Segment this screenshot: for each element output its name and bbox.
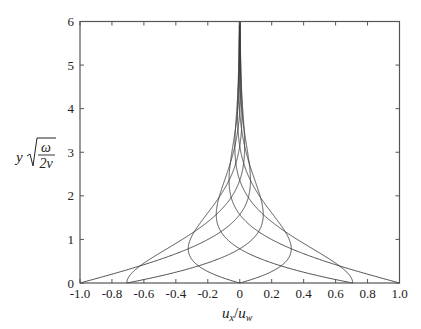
- svg-text:ω: ω: [41, 140, 51, 155]
- svg-text:y: y: [14, 149, 23, 165]
- y-tick-label: 4: [68, 101, 75, 116]
- x-tick-label: -0.4: [166, 286, 187, 301]
- profile-curves: [80, 22, 400, 284]
- x-tick-label: -0.8: [102, 286, 123, 301]
- velocity-profile-curve: [188, 22, 242, 284]
- x-tick-label: 0.8: [359, 286, 375, 301]
- y-tick-label: 1: [68, 232, 75, 247]
- velocity-profile-curve: [80, 22, 250, 284]
- x-tick-label: 0: [237, 286, 244, 301]
- y-tick-label: 3: [68, 145, 75, 160]
- x-tick-label: -0.2: [198, 286, 219, 301]
- velocity-profile-curve: [127, 22, 263, 284]
- x-tick-label: -0.6: [134, 286, 155, 301]
- x-tick-label: 0.6: [327, 286, 344, 301]
- y-tick-label: 2: [68, 188, 75, 203]
- x-tick-label: 0.4: [296, 286, 313, 301]
- y-axis-label: y ω 2ν: [14, 138, 56, 171]
- y-tick-label: 5: [68, 58, 75, 73]
- y-tick-label: 6: [68, 14, 75, 29]
- velocity-profile-curve: [216, 22, 352, 284]
- x-axis-label: ux/uw: [222, 305, 253, 323]
- velocity-profile-curve: [127, 22, 245, 284]
- velocity-profile-curve: [229, 22, 399, 284]
- velocity-profile-curve: [238, 22, 292, 284]
- x-tick-label: 1.0: [391, 286, 407, 301]
- x-tick-label: 0.2: [264, 286, 280, 301]
- velocity-profile-curve: [235, 22, 353, 284]
- svg-text:2ν: 2ν: [39, 156, 53, 171]
- chart-canvas: -1.0-0.8-0.6-0.4-0.200.20.40.60.81.0 012…: [0, 0, 421, 329]
- y-tick-label: 0: [68, 276, 75, 291]
